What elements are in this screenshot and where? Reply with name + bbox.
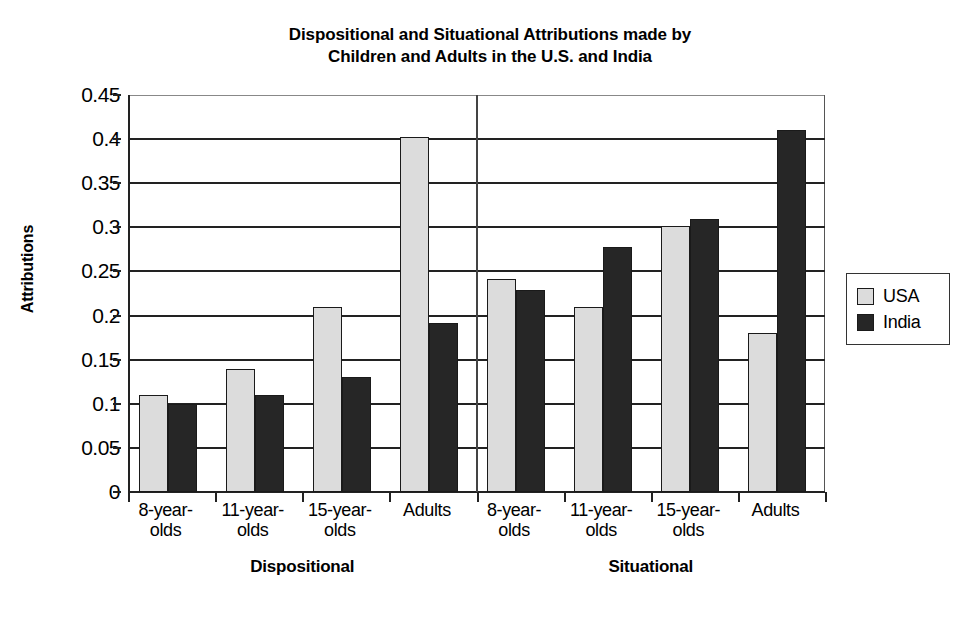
chart-title-line-1: Dispositional and Situational Attributio… xyxy=(140,24,840,46)
supergroup-label: Dispositional xyxy=(128,557,477,577)
category-label-line-1: Adults xyxy=(403,500,451,520)
y-axis-tick-mark xyxy=(113,315,121,317)
bar-india xyxy=(690,219,719,492)
y-axis-tick-label: 0.15 xyxy=(0,349,120,370)
category-label-line-2: olds xyxy=(209,520,296,540)
x-axis-category-label: Adults xyxy=(383,500,470,520)
category-label-line-2: olds xyxy=(645,520,732,540)
category-label-line-2: olds xyxy=(122,520,209,540)
category-label-line-1: 8-year- xyxy=(138,500,192,520)
y-axis-tick-mark xyxy=(113,226,121,228)
y-axis-line xyxy=(128,95,130,492)
bar-india xyxy=(429,323,458,492)
y-axis-tick-label: 0.1 xyxy=(0,393,120,414)
x-axis-category-label: 11-year-olds xyxy=(209,500,296,540)
bar-india xyxy=(516,290,545,492)
bar-usa xyxy=(313,307,342,492)
y-axis-tick-label: 0.2 xyxy=(0,305,120,326)
x-axis-category-label: 15-year-olds xyxy=(296,500,383,540)
category-label-line-1: 11-year- xyxy=(570,500,633,520)
legend-item: USA xyxy=(857,283,941,309)
bar-usa xyxy=(661,226,690,492)
chart-title: Dispositional and Situational Attributio… xyxy=(140,24,840,69)
chart-title-line-2: Children and Adults in the U.S. and Indi… xyxy=(140,46,840,68)
y-axis-tick-label: 0.3 xyxy=(0,216,120,237)
bar-usa xyxy=(574,307,603,492)
y-axis-tick-mark xyxy=(113,359,121,361)
bar-india xyxy=(168,404,197,492)
category-label-line-1: 15-year- xyxy=(308,500,372,520)
y-axis-tick-mark xyxy=(113,447,121,449)
bar-usa xyxy=(748,333,777,492)
y-axis-tick-label: 0.05 xyxy=(0,437,120,458)
y-axis-tick-label: 0 xyxy=(0,481,120,502)
legend-label: USA xyxy=(883,286,919,307)
legend-swatch-india xyxy=(857,314,874,331)
category-label-line-1: Adults xyxy=(752,500,800,520)
legend-swatch-usa xyxy=(857,288,874,305)
category-label-line-1: 8-year- xyxy=(487,500,541,520)
y-axis-tick-mark xyxy=(113,270,121,272)
y-axis-tick-labels: 0.450.40.350.30.250.20.150.10.050 xyxy=(0,95,120,492)
y-axis-tick-mark xyxy=(113,491,121,493)
bar-usa xyxy=(487,279,516,492)
bar-india xyxy=(255,395,284,492)
category-label-line-2: olds xyxy=(296,520,383,540)
supergroup-divider xyxy=(476,95,478,492)
bar-usa xyxy=(226,369,255,493)
x-axis-category-label: 8-year-olds xyxy=(471,500,558,540)
y-axis-tick-mark xyxy=(113,403,121,405)
y-axis-tick-mark xyxy=(113,138,121,140)
category-label-line-2: olds xyxy=(471,520,558,540)
y-axis-tick-label: 0.35 xyxy=(0,172,120,193)
bar-usa xyxy=(400,137,429,492)
bar-india xyxy=(603,247,632,492)
x-axis-tick-mark xyxy=(825,492,827,502)
y-axis-tick-mark xyxy=(113,94,121,96)
category-label-line-2: olds xyxy=(558,520,645,540)
x-axis-category-label: 15-year-olds xyxy=(645,500,732,540)
x-axis-category-label: Adults xyxy=(732,500,819,520)
y-axis-tick-label: 0.45 xyxy=(0,84,120,105)
y-axis-tick-label: 0.25 xyxy=(0,260,120,281)
category-label-line-1: 15-year- xyxy=(656,500,720,520)
bar-usa xyxy=(139,395,168,492)
bar-india xyxy=(342,377,371,492)
legend-label: India xyxy=(883,312,921,333)
y-axis-tick-label: 0.4 xyxy=(0,128,120,149)
chart-legend: USAIndia xyxy=(846,273,950,345)
bar-india xyxy=(777,130,806,492)
y-axis-tick-mark xyxy=(113,182,121,184)
plot-border-right xyxy=(824,95,825,492)
supergroup-label: Situational xyxy=(477,557,826,577)
legend-item: India xyxy=(857,309,941,335)
bar-chart: Dispositional and Situational Attributio… xyxy=(0,0,971,620)
plot-area xyxy=(128,95,825,492)
x-axis-category-label: 8-year-olds xyxy=(122,500,209,540)
category-label-line-1: 11-year- xyxy=(221,500,284,520)
x-axis-category-label: 11-year-olds xyxy=(558,500,645,540)
